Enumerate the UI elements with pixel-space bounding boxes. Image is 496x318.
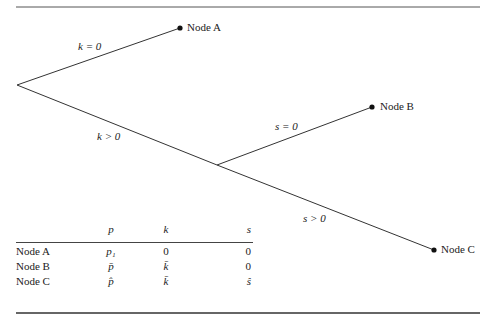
header-p: p bbox=[91, 223, 131, 243]
row-s: ŝ bbox=[201, 273, 259, 288]
row-p: p₁ bbox=[91, 243, 131, 258]
node-c-dot bbox=[431, 247, 436, 252]
node-c-label: Node C bbox=[441, 243, 475, 255]
edge-split-b bbox=[217, 107, 372, 165]
table-row: Node A p₁ 0 0 bbox=[16, 243, 259, 258]
node-b-label: Node B bbox=[380, 100, 414, 112]
table-row: Node B p̄ k̄ 0 bbox=[16, 258, 259, 273]
header-k: k bbox=[131, 223, 201, 243]
edge-root-a bbox=[17, 28, 180, 85]
row-k: 0 bbox=[131, 243, 201, 258]
node-a-dot bbox=[177, 25, 182, 30]
row-s: 0 bbox=[201, 258, 259, 273]
edge-root-split bbox=[17, 85, 217, 165]
row-node: Node C bbox=[16, 273, 91, 288]
edge-label-k-gt-0: k > 0 bbox=[97, 130, 120, 142]
edge-label-k-eq-0: k = 0 bbox=[78, 40, 101, 52]
node-a-label: Node A bbox=[187, 21, 221, 33]
row-s: 0 bbox=[201, 243, 259, 258]
header-node bbox=[16, 223, 91, 243]
row-node: Node B bbox=[16, 258, 91, 273]
row-node: Node A bbox=[16, 243, 91, 258]
header-s: s bbox=[201, 223, 259, 243]
node-b-dot bbox=[369, 104, 374, 109]
table-header-row: p k s bbox=[16, 223, 259, 243]
row-k: k̄ bbox=[131, 273, 201, 288]
row-k: k̄ bbox=[131, 258, 201, 273]
node-values-table: p k s Node A p₁ 0 0 Node B p̄ k̄ 0 Node … bbox=[16, 223, 259, 288]
edge-label-s-eq-0: s = 0 bbox=[275, 120, 298, 132]
edge-label-s-gt-0: s > 0 bbox=[303, 212, 326, 224]
table-row: Node C p̂ k̄ ŝ bbox=[16, 273, 259, 288]
row-p: p̂ bbox=[91, 273, 131, 288]
row-p: p̄ bbox=[91, 258, 131, 273]
